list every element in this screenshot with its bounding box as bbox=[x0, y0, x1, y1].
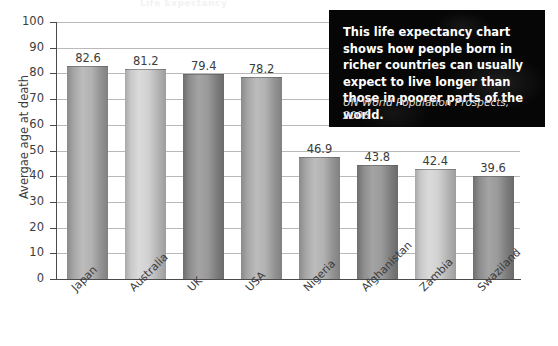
bar-fill bbox=[299, 157, 340, 279]
y-axis-tick-label: 90 bbox=[16, 40, 44, 54]
bar-fill bbox=[241, 77, 282, 279]
bar-value-label: 42.4 bbox=[405, 154, 465, 168]
bar-fill bbox=[183, 74, 224, 279]
bar bbox=[241, 78, 282, 279]
y-axis-tick-label: 20 bbox=[16, 220, 44, 234]
bar-fill bbox=[125, 69, 166, 279]
x-axis-line bbox=[56, 279, 521, 280]
y-axis-tick-label: 100 bbox=[16, 14, 44, 28]
y-axis-tick-label: 10 bbox=[16, 245, 44, 259]
y-axis-tick-label: 0 bbox=[16, 271, 44, 285]
bar-fill bbox=[67, 66, 108, 279]
chart-figure: Life Expectancy 1009080706050403020100 A… bbox=[0, 0, 558, 346]
y-axis-title: Avergae age at death bbox=[17, 57, 31, 217]
bar-value-label: 79.4 bbox=[174, 59, 234, 73]
bar bbox=[299, 158, 340, 279]
bar-value-label: 81.2 bbox=[116, 54, 176, 68]
bar-value-label: 43.8 bbox=[347, 150, 407, 164]
annotation-box: This life expectancy chart shows how peo… bbox=[329, 10, 545, 127]
bar bbox=[67, 67, 108, 279]
bar-value-label: 78.2 bbox=[232, 62, 292, 76]
bar-value-label: 82.6 bbox=[58, 51, 118, 65]
bar bbox=[125, 70, 166, 279]
bar-value-label: 46.9 bbox=[289, 142, 349, 156]
bar-value-label: 39.6 bbox=[463, 161, 523, 175]
bar bbox=[183, 75, 224, 279]
annotation-source: UN World Population Prospects, 2006 bbox=[343, 96, 538, 122]
faded-chart-title: Life Expectancy bbox=[140, 0, 300, 10]
